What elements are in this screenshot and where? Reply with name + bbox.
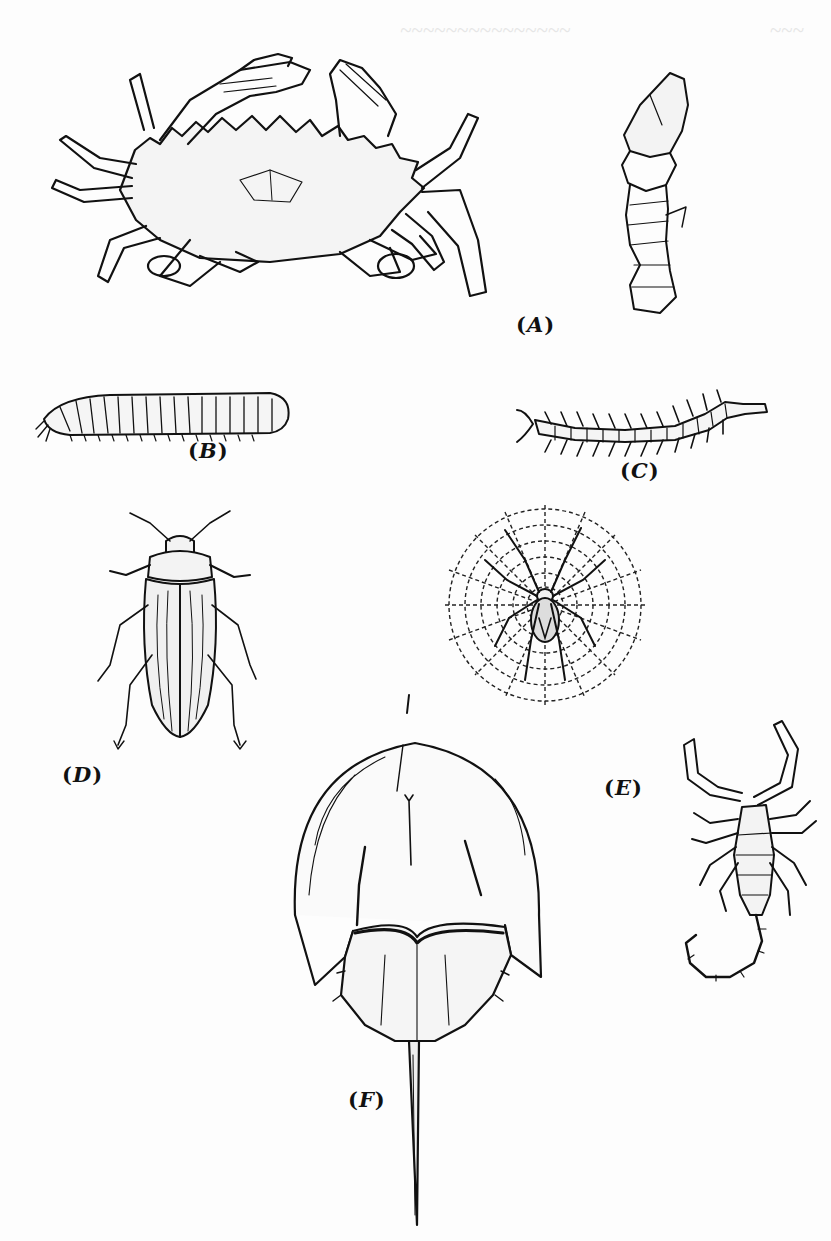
figure-label-f: (F) [348, 1087, 386, 1112]
figure-label-b: (B) [188, 438, 229, 463]
crab-illustration [40, 40, 500, 310]
figure-f-horseshoe-crab [285, 695, 575, 1230]
book-page: ~~~~~~~~~~~~~~~ ~~~ [0, 0, 831, 1241]
figure-b-millipede [30, 385, 300, 445]
figure-label-d: (D) [62, 762, 103, 787]
bleed-through-page-number: ~~~ [770, 18, 804, 43]
beetle-illustration [90, 505, 270, 760]
figure-label-a: (A) [516, 312, 555, 337]
centipede-illustration [515, 390, 775, 460]
figure-a-lobster-claw [600, 65, 710, 320]
figure-e-scorpion [670, 715, 820, 995]
figure-c-centipede [515, 390, 775, 460]
figure-label-e: (E) [604, 775, 643, 800]
millipede-illustration [30, 385, 300, 445]
figure-label-c: (C) [620, 458, 660, 483]
figure-spider-web [435, 500, 655, 710]
spider-web-illustration [435, 500, 655, 710]
figure-d-beetle [90, 505, 270, 760]
scorpion-illustration [670, 715, 820, 995]
horseshoe-crab-illustration [285, 695, 575, 1230]
figure-a-crab [40, 40, 500, 310]
lobster-claw-illustration [600, 65, 710, 320]
